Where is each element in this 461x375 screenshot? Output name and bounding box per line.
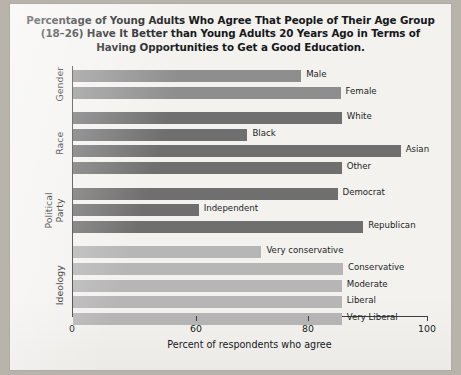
- bar-label: Female: [346, 86, 377, 96]
- bar-row: Moderate: [73, 280, 427, 292]
- bar-row: Male: [73, 70, 427, 82]
- bar: [73, 221, 363, 233]
- chart-title-line-1: Percentage of Young Adults Who Agree Tha…: [26, 14, 435, 27]
- group-label-gender: Gender: [55, 67, 66, 102]
- chart-title-line-3: Having Opportunities to Get a Good Educa…: [26, 41, 435, 54]
- group-label-race: Race: [55, 131, 66, 154]
- x-tick-label: 0: [69, 323, 75, 334]
- bar: [73, 296, 342, 308]
- bar-row: Female: [73, 87, 427, 99]
- x-tick-label: 100: [418, 323, 436, 334]
- bar-label: Democrat: [343, 187, 385, 197]
- x-tick-label: 60: [190, 323, 202, 334]
- bar-row: Liberal: [73, 296, 427, 308]
- bar-label: Independent: [204, 203, 258, 213]
- bar-row: Very Liberal: [73, 313, 427, 325]
- bar-row: Independent: [73, 204, 427, 216]
- x-tick: [196, 316, 197, 321]
- chart-title: Percentage of Young Adults Who Agree Tha…: [26, 14, 435, 54]
- bar-row: Conservative: [73, 263, 427, 275]
- bar: [73, 204, 199, 216]
- bar-label: Black: [252, 128, 275, 138]
- bar: [73, 246, 261, 258]
- bar-label: Conservative: [348, 262, 405, 272]
- x-tick-label: 80: [302, 323, 314, 334]
- bar-label: White: [347, 111, 372, 121]
- bar-label: Moderate: [347, 279, 388, 289]
- bar-label: Asian: [406, 144, 429, 154]
- group-label-ideology: Ideology: [55, 265, 66, 305]
- x-axis-label: Percent of respondents who agree: [72, 339, 427, 350]
- scanned-page: Percentage of Young Adults Who Agree Tha…: [10, 4, 451, 370]
- bar-label: Very conservative: [266, 245, 343, 255]
- bar-label: Male: [306, 69, 326, 79]
- plot-area: MaleFemaleWhiteBlackAsianOtherDemocratIn…: [72, 66, 427, 317]
- group-label-line: Party: [54, 192, 65, 228]
- bar: [73, 70, 301, 82]
- x-tick: [308, 316, 309, 321]
- bar: [73, 188, 338, 200]
- bar: [73, 280, 342, 292]
- bar-label: Very Liberal: [347, 312, 398, 322]
- bar: [73, 87, 341, 99]
- bar-label: Liberal: [347, 295, 376, 305]
- group-label-political-party: PoliticalParty: [44, 192, 65, 228]
- bar-label: Other: [347, 161, 371, 171]
- bar-row: Republican: [73, 221, 427, 233]
- bar: [73, 263, 343, 275]
- bar: [73, 129, 247, 141]
- bar-label: Republican: [368, 220, 415, 230]
- bar-row: Other: [73, 162, 427, 174]
- chart-title-line-2: (18–26) Have It Better than Young Adults…: [26, 27, 435, 40]
- bar-row: Asian: [73, 145, 427, 157]
- bar: [73, 145, 401, 157]
- bar: [73, 112, 342, 124]
- x-tick: [427, 316, 428, 321]
- bar-row: Black: [73, 129, 427, 141]
- screenshot-root: Percentage of Young Adults Who Agree Tha…: [0, 0, 461, 375]
- bar-row: Democrat: [73, 188, 427, 200]
- group-label-line: Political: [44, 192, 55, 228]
- bar-row: White: [73, 112, 427, 124]
- bar-row: Very conservative: [73, 246, 427, 258]
- bar: [73, 162, 342, 174]
